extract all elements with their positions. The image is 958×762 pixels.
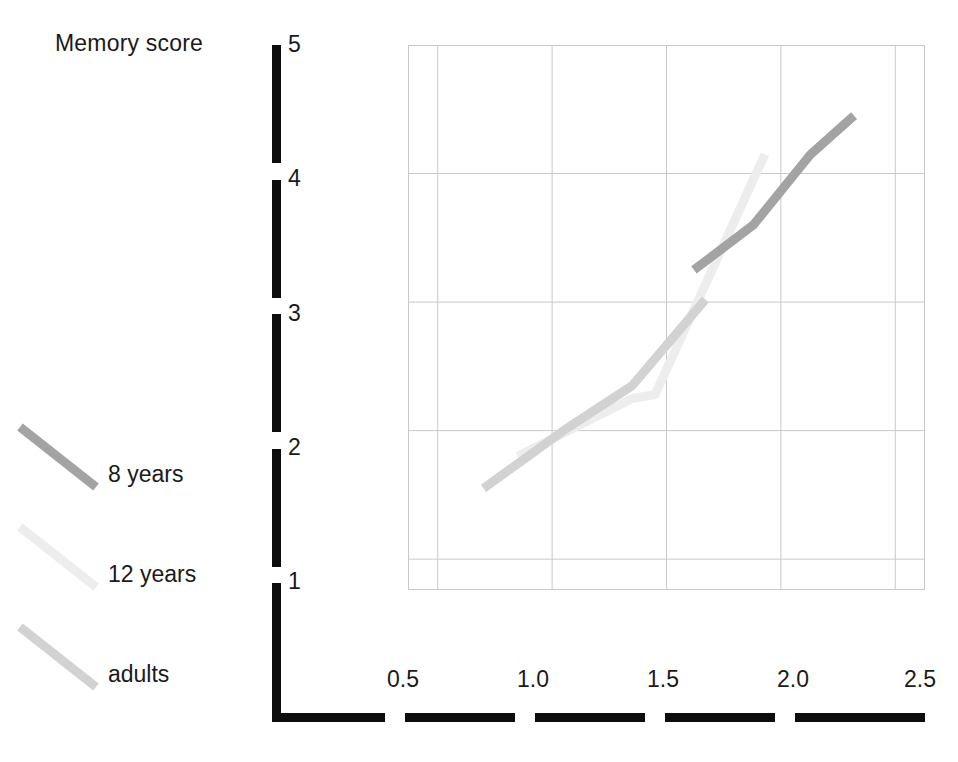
x-axis-segment	[665, 713, 775, 722]
y-axis-segment	[272, 314, 281, 432]
x-tick-label-0: 0.5	[387, 668, 419, 691]
y-axis-segment	[272, 180, 281, 298]
series-line-12-years	[518, 154, 765, 456]
x-axis-segment	[795, 713, 925, 722]
legend-swatch-icon	[14, 521, 102, 593]
y-tick-label-5: 5	[288, 33, 301, 56]
y-tick-label-4: 4	[288, 167, 301, 190]
y-tick-label-2: 2	[288, 436, 301, 459]
legend: 8 years 12 years adults	[0, 415, 250, 725]
y-axis-segment	[272, 583, 281, 713]
legend-swatch-icon	[14, 621, 102, 693]
legend-label-8-years: 8 years	[108, 461, 183, 488]
legend-label-12-years: 12 years	[108, 561, 196, 588]
y-axis-title: Memory score	[55, 30, 203, 57]
x-tick-label-2: 1.5	[647, 668, 679, 691]
series-line-8-years	[694, 116, 854, 270]
legend-item-12-years[interactable]: 12 years	[0, 515, 250, 615]
x-tick-label-4: 2.5	[904, 668, 936, 691]
legend-item-8-years[interactable]: 8 years	[0, 415, 250, 515]
y-axis-segment	[272, 45, 281, 163]
legend-item-adults[interactable]: adults	[0, 615, 250, 715]
memory-score-line-chart: Memory score 5 4 3 2 1 0.5 1.0 1.5 2.0 2…	[0, 0, 958, 762]
y-tick-label-1: 1	[288, 570, 301, 593]
y-axis-segment	[272, 449, 281, 567]
series-line-adults	[483, 300, 705, 489]
plot-area	[408, 45, 925, 590]
x-tick-label-3: 2.0	[777, 668, 809, 691]
legend-swatch-icon	[14, 421, 102, 493]
y-tick-label-3: 3	[288, 302, 301, 325]
x-axis-segment	[405, 713, 515, 722]
axis-corner	[272, 713, 281, 722]
plot-canvas	[408, 45, 925, 590]
x-axis-segment	[281, 713, 385, 722]
x-tick-label-1: 1.0	[517, 668, 549, 691]
x-axis-segment	[535, 713, 645, 722]
legend-label-adults: adults	[108, 661, 169, 688]
